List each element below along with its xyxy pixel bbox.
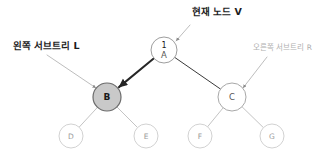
annotation-label-current-node: 현재 노드 V (192, 7, 242, 17)
tree-edge-b-d (79, 107, 97, 127)
tree-node-b[interactable]: B (93, 83, 121, 111)
node-label-c: C (229, 92, 235, 102)
node-label-f: F (198, 132, 202, 141)
node-index-a: 1 (161, 41, 166, 50)
tree-edge-c-g (242, 107, 263, 128)
annotation-label-right-subtree: 오른쪽 서브트리 R (253, 44, 312, 52)
tree-node-d[interactable]: D (59, 124, 83, 148)
leader-line-right-subtree (243, 57, 267, 88)
node-label-g: G (269, 132, 275, 141)
leader-line-left-subtree (47, 55, 96, 88)
tree-node-e[interactable]: E (134, 124, 158, 148)
tree-diagram-canvas: 1ABCDEFG 현재 노드 V왼쪽 서브트리 L오른쪽 서브트리 R (0, 0, 333, 160)
tree-edge-a-c (175, 57, 221, 89)
tree-svg: 1ABCDEFG (0, 0, 333, 160)
node-label-b: B (104, 92, 111, 102)
tree-node-g[interactable]: G (260, 124, 284, 148)
tree-edge-a-b (119, 58, 154, 87)
leader-line-current-node (176, 25, 190, 41)
node-label-e: E (144, 132, 149, 141)
tree-edge-b-e (117, 107, 138, 128)
node-label-a: A (161, 50, 167, 60)
tree-node-a[interactable]: 1A (151, 37, 177, 63)
tree-edge-c-f (208, 108, 224, 127)
annotation-label-left-subtree: 왼쪽 서브트리 L (13, 41, 80, 51)
tree-node-c[interactable]: C (218, 83, 246, 111)
tree-nodes-group: 1ABCDEFG (59, 37, 284, 148)
node-label-d: D (68, 132, 74, 141)
tree-node-f[interactable]: F (188, 124, 212, 148)
